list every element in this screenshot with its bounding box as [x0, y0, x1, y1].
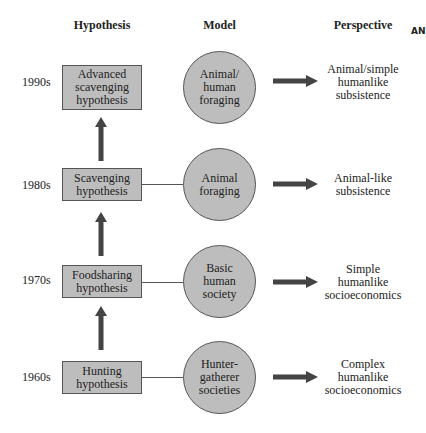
model-circle: Animal foraging — [183, 148, 256, 221]
model-circle: Hunter- gatherer societies — [183, 341, 256, 414]
hypothesis-box: Foodsharing hypothesis — [62, 265, 142, 298]
persp-line: socioeconomics — [318, 384, 408, 397]
perspective-text: Complex humanlike socioeconomics — [318, 358, 408, 397]
box-line: Scavenging — [74, 172, 130, 185]
circle-line: foraging — [199, 185, 240, 198]
decade-label: 1970s — [22, 273, 62, 288]
right-arrow-icon — [273, 75, 318, 87]
hypothesis-box: Advanced scavenging hypothesis — [62, 65, 142, 110]
up-arrow-icon — [95, 117, 107, 161]
header-hypothesis: Hypothesis — [62, 18, 142, 33]
decade-label: 1960s — [22, 370, 62, 385]
persp-line: socioeconomics — [318, 289, 408, 302]
right-arrow-icon — [273, 371, 318, 383]
connector-line — [142, 282, 183, 283]
hypothesis-box: Hunting hypothesis — [62, 361, 142, 394]
box-line: hypothesis — [72, 282, 132, 295]
up-arrow-icon — [95, 306, 107, 350]
connector-line — [142, 377, 183, 378]
circle-line: society — [203, 288, 237, 301]
header-model: Model — [183, 18, 256, 33]
corner-label: AN — [411, 26, 426, 36]
persp-line: subsistence — [318, 185, 408, 198]
model-circle: Animal/ human foraging — [183, 51, 256, 124]
right-arrow-icon — [273, 276, 318, 288]
box-line: hypothesis — [75, 94, 129, 107]
perspective-text: Animal/simple humanlike subsistence — [318, 63, 408, 102]
perspective-text: Simple humanlike socioeconomics — [318, 263, 408, 302]
connector-line — [142, 184, 183, 185]
circle-line: foraging — [199, 94, 240, 107]
up-arrow-icon — [95, 212, 107, 256]
right-arrow-icon — [273, 178, 318, 190]
hypothesis-box: Scavenging hypothesis — [62, 168, 142, 201]
decade-label: 1980s — [22, 178, 62, 193]
circle-line: societies — [199, 384, 240, 397]
perspective-text: Animal-like subsistence — [318, 172, 408, 198]
persp-line: subsistence — [318, 89, 408, 102]
box-line: Foodsharing — [72, 269, 132, 282]
header-perspective: Perspective — [318, 18, 408, 33]
decade-label: 1990s — [22, 75, 62, 90]
model-circle: Basic human society — [183, 245, 256, 318]
box-line: hypothesis — [74, 185, 130, 198]
circle-line: Animal — [199, 172, 240, 185]
box-line: hypothesis — [76, 378, 127, 391]
box-line: Hunting — [76, 365, 127, 378]
